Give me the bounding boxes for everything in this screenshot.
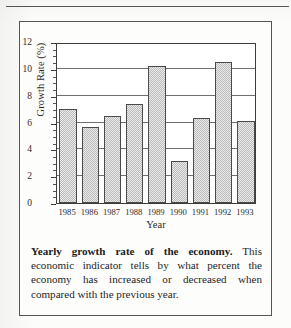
bar [171,161,188,203]
x-tick-label: 1985 [56,207,78,217]
x-tick-label: 1991 [189,207,211,217]
x-tick-label: 1986 [78,207,100,217]
bar-slot [82,42,99,203]
bar [82,127,99,203]
bar [126,104,143,203]
bar [148,66,165,203]
x-tick-label: 1993 [234,207,256,217]
y-tick-label: 8 [12,91,32,101]
y-tick-label: 4 [12,144,32,154]
bar-slot [148,42,165,203]
bar-slot [104,42,121,203]
bar-slot [171,42,188,203]
x-tick-label: 1992 [212,207,234,217]
bar-slot [193,42,210,203]
y-tick-label: 10 [12,64,32,74]
y-axis-title: Growth Rate (%) [35,20,46,140]
bar-slot [59,42,76,203]
bar [237,121,254,203]
bar [104,116,121,203]
y-tick-label: 6 [12,118,32,128]
y-tick-label: 12 [12,37,32,47]
bar [59,109,76,203]
x-tick-label: 1987 [100,207,122,217]
caption-lead: Yearly growth rate of the economy. [31,245,233,257]
y-tick-label: 2 [12,171,32,181]
x-axis-title: Year [56,219,256,230]
bar [215,62,232,203]
bar-series [57,44,255,203]
x-tick-label: 1990 [167,207,189,217]
figure-box: Growth Rate (%) 024681012 19851986198719… [19,21,272,316]
x-tick-label: 1989 [145,207,167,217]
bar-slot [215,42,232,203]
bar-slot [237,42,254,203]
figure-caption: Yearly growth rate of the economy. This … [31,244,262,301]
bar [193,118,210,203]
x-tick-label: 1988 [123,207,145,217]
page-background: Growth Rate (%) 024681012 19851986198719… [0,0,291,328]
page-top-rule [6,6,289,7]
bar-slot [126,42,143,203]
plot-area [56,43,256,204]
y-tick-major [51,204,56,205]
bar-chart: Growth Rate (%) 024681012 19851986198719… [20,22,273,234]
y-tick-label: 0 [12,198,32,208]
